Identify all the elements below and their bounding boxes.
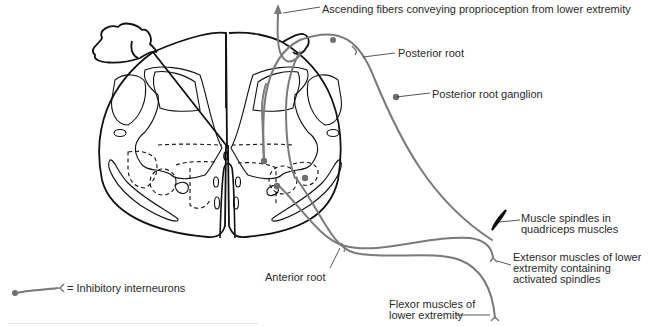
extensor-terminal-icon — [490, 258, 497, 262]
label-extensor-3: activated spindles — [513, 273, 600, 285]
muscle-spindle-icon — [492, 210, 506, 230]
flexor-terminal-icon — [491, 317, 499, 321]
label-flexor-2: lower extremity — [389, 309, 463, 321]
label-muscle-spindles-2: quadriceps muscles — [521, 223, 618, 235]
legend-label: = Inhibitory interneurons — [67, 282, 185, 294]
spinal-cord-outline — [99, 33, 341, 238]
label-anterior-root: Anterior root — [265, 271, 326, 283]
efferent-fibers — [277, 178, 495, 318]
legend-fiber-icon — [16, 288, 58, 293]
ascending-arrow-icon — [274, 4, 282, 14]
divider — [8, 323, 258, 324]
label-posterior-root-ganglion: Posterior root ganglion — [432, 88, 543, 100]
label-posterior-root: Posterior root — [398, 47, 464, 59]
legend-synapse-icon — [60, 284, 64, 292]
label-ascending-fibers: Ascending fibers conveying proprioceptio… — [322, 3, 631, 15]
